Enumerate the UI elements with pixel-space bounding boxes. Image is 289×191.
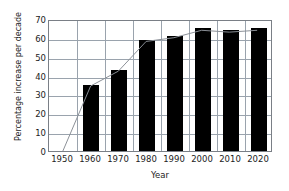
y-tick-label: 30: [26, 90, 46, 100]
x-tick-label: 2020: [238, 154, 278, 164]
bar-chart: Percentage increase per decade 010203040…: [0, 0, 289, 191]
plot-area: [48, 20, 272, 152]
bar: [251, 28, 267, 151]
bar: [167, 36, 183, 151]
y-tick-label: 70: [26, 15, 46, 25]
y-tick-label: 20: [26, 109, 46, 119]
gridline-vertical: [189, 21, 190, 151]
y-axis-title: Percentage increase per decade: [14, 7, 23, 147]
gridline-vertical: [105, 21, 106, 151]
bar: [111, 70, 127, 151]
gridline-vertical: [245, 21, 246, 151]
y-tick-label: 50: [26, 53, 46, 63]
bar: [195, 28, 211, 151]
y-tick-label: 60: [26, 34, 46, 44]
gridline-vertical: [161, 21, 162, 151]
gridline-vertical: [217, 21, 218, 151]
x-axis-tick-labels: 19501960197019801990200020102020: [48, 154, 272, 168]
gridline-vertical: [133, 21, 134, 151]
y-tick-label: 40: [26, 72, 46, 82]
bar: [223, 30, 239, 151]
bar: [139, 40, 155, 151]
gridline-vertical: [77, 21, 78, 151]
x-axis-title: Year: [48, 170, 272, 180]
bar: [83, 85, 99, 151]
y-tick-label: 10: [26, 128, 46, 138]
